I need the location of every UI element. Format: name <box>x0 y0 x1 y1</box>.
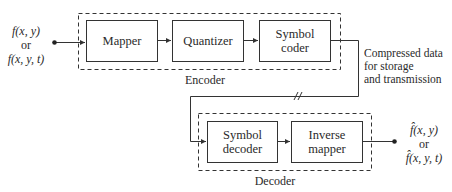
symbol-decoder-line2: decoder <box>223 142 263 156</box>
symbol-coder-line2: coder <box>281 41 309 55</box>
channel-line3: and transmission <box>364 73 443 86</box>
channel-label: Compressed data for storage and transmis… <box>364 47 443 86</box>
output-signal-label: f̂(x, y) or f̂(x, y, t) <box>400 123 448 165</box>
output-line3: f̂(x, y, t) <box>400 151 448 165</box>
symbol-coder-line1: Symbol <box>276 27 315 41</box>
symbol-coder-label: Symbol coder <box>259 20 331 62</box>
input-signal-label: f(x, y) or f(x, y, t) <box>6 24 46 66</box>
decoder-label: Decoder <box>250 174 300 188</box>
output-line2: or <box>400 137 448 151</box>
symbol-decoder-label: Symbol decoder <box>207 121 278 163</box>
input-dot <box>52 40 57 45</box>
channel-line2: for storage <box>364 60 443 73</box>
inverse-mapper-line2: mapper <box>308 142 345 156</box>
input-line3: f(x, y, t) <box>6 52 46 66</box>
input-line2: or <box>6 38 46 52</box>
inverse-mapper-line1: Inverse <box>309 128 346 142</box>
channel-line1: Compressed data <box>364 47 443 60</box>
quantizer-label: Quantizer <box>172 20 244 62</box>
mapper-label: Mapper <box>86 20 158 62</box>
output-line1: f̂(x, y) <box>400 123 448 137</box>
encoder-label: Encoder <box>180 73 230 87</box>
symbol-decoder-line1: Symbol <box>223 128 262 142</box>
input-line1: f(x, y) <box>6 24 46 38</box>
output-dot <box>392 139 397 144</box>
inverse-mapper-label: Inverse mapper <box>291 121 363 163</box>
